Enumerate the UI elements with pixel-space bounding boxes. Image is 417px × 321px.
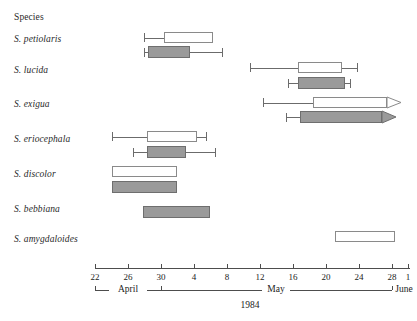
white-interval-bar: [164, 32, 213, 43]
month-rule-left: [161, 290, 262, 291]
whisker-low-line: [288, 83, 298, 84]
whisker-low-line: [133, 152, 147, 153]
whisker-low-cap: [263, 98, 264, 107]
open-ended-arrow-icon: [382, 107, 397, 127]
axis-year-label: 1984: [241, 300, 260, 310]
whisker-high-line: [190, 52, 222, 53]
gray-interval-bar: [298, 77, 345, 89]
axis-tick: [161, 264, 162, 268]
axis-tick: [227, 264, 228, 268]
axis-tick-label: 24: [355, 272, 364, 282]
whisker-low-cap: [133, 148, 134, 157]
axis-tick: [408, 264, 409, 268]
whisker-high-line: [186, 152, 215, 153]
whisker-low-line: [144, 38, 164, 39]
white-interval-bar: [147, 131, 197, 142]
axis-tick: [326, 264, 327, 268]
axis-tick: [392, 264, 393, 268]
axis-month-label: May: [267, 284, 284, 294]
month-rule-right: [290, 290, 392, 291]
gray-interval-bar: [148, 46, 190, 58]
axis-tick: [194, 264, 195, 268]
axis-tick-label: 1: [406, 272, 411, 282]
whisker-low-line: [112, 137, 147, 138]
whisker-low-line: [263, 103, 313, 104]
whisker-low-cap: [288, 79, 289, 88]
whisker-high-line: [197, 137, 206, 138]
gray-interval-bar: [147, 146, 186, 158]
axis-tick-label: 8: [225, 272, 230, 282]
whisker-low-cap: [250, 63, 251, 72]
whisker-low-line: [250, 68, 298, 69]
axis-tick: [260, 264, 261, 268]
gray-interval-bar: [300, 111, 382, 123]
whisker-high-cap: [350, 79, 351, 88]
month-boundary-tick: [95, 286, 96, 290]
month-rule-left: [95, 290, 109, 291]
axis-tick-label: 16: [289, 272, 298, 282]
axis-tick-label: 20: [322, 272, 331, 282]
whisker-low-cap: [286, 113, 287, 122]
axis-tick-label: 4: [192, 272, 197, 282]
gray-interval-bar: [112, 181, 177, 193]
whisker-high-cap: [215, 148, 216, 157]
axis-tick: [293, 264, 294, 268]
axis-tick: [359, 264, 360, 268]
axis-baseline: [95, 268, 410, 269]
white-interval-bar: [112, 166, 177, 177]
whisker-high-cap: [206, 132, 207, 141]
axis-tick-label: 26: [124, 272, 133, 282]
axis-tick-label: 22: [91, 272, 100, 282]
whisker-low-cap: [112, 132, 113, 141]
axis-tick-label: 28: [388, 272, 397, 282]
whisker-low-cap: [144, 48, 145, 57]
month-rule-right: [147, 290, 161, 291]
gray-interval-bar: [143, 206, 210, 218]
white-interval-bar: [313, 97, 387, 108]
whisker-high-line: [342, 68, 357, 69]
axis-tick: [95, 264, 96, 268]
axis-month-label: April: [118, 284, 138, 294]
white-interval-bar: [335, 231, 395, 242]
month-boundary-tick: [161, 286, 162, 290]
axis-tick-label: 12: [256, 272, 265, 282]
axis-tick-label: 30: [157, 272, 166, 282]
axis-month-label: June: [395, 284, 412, 294]
whisker-low-cap: [144, 33, 145, 42]
month-boundary-tick: [392, 286, 393, 290]
willow-phenology-chart: Species S. petiolarisS. lucidaS. exiguaS…: [0, 0, 417, 321]
axis-tick: [128, 264, 129, 268]
whisker-high-cap: [357, 63, 358, 72]
whisker-high-cap: [222, 48, 223, 57]
whisker-low-line: [286, 117, 300, 118]
white-interval-bar: [298, 62, 342, 73]
